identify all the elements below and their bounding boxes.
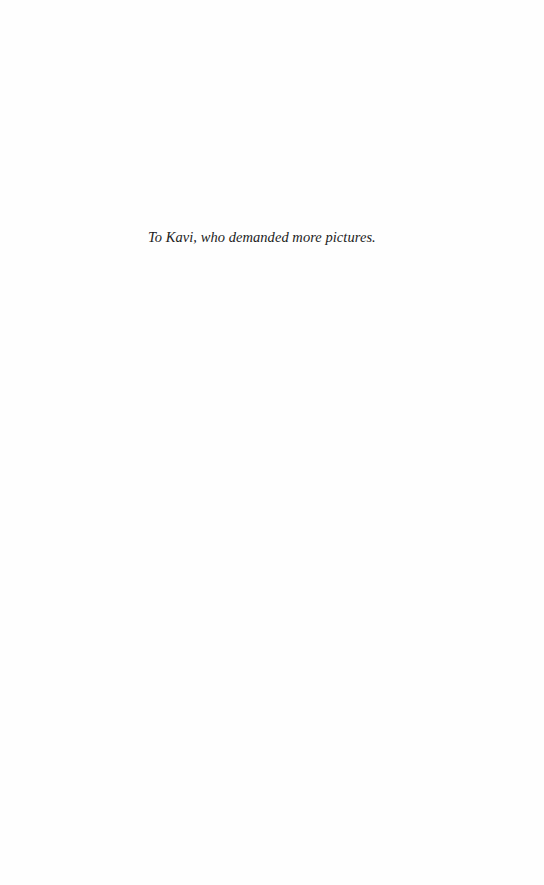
book-page: To Kavi, who demanded more pictures. [0, 0, 544, 885]
dedication-text: To Kavi, who demanded more pictures. [148, 229, 376, 246]
